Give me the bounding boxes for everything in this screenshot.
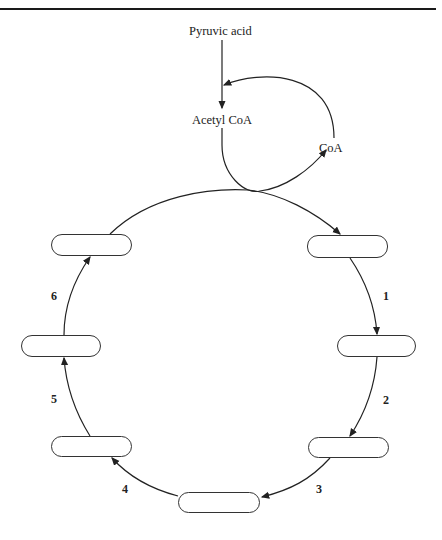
cycle-box-bottom-left — [51, 436, 132, 457]
step-5-label: 5 — [51, 392, 57, 407]
cycle-box-bottom — [178, 492, 260, 513]
cycle-arrows — [0, 0, 442, 540]
cycle-box-top-left — [51, 234, 132, 256]
step-4-label: 4 — [122, 482, 128, 497]
acetyl-coa-label: Acetyl CoA — [192, 113, 252, 128]
step-2-label: 2 — [383, 393, 389, 408]
cycle-box-top-right — [307, 235, 388, 258]
coa-label: CoA — [319, 141, 343, 156]
step-1-label: 1 — [383, 289, 389, 304]
pyruvic-acid-label: Pyruvic acid — [189, 24, 252, 39]
cycle-box-right — [337, 335, 416, 357]
cycle-box-bottom-right — [308, 437, 389, 458]
step-3-label: 3 — [316, 482, 322, 497]
step-6-label: 6 — [51, 289, 57, 304]
cycle-box-left — [21, 335, 101, 357]
